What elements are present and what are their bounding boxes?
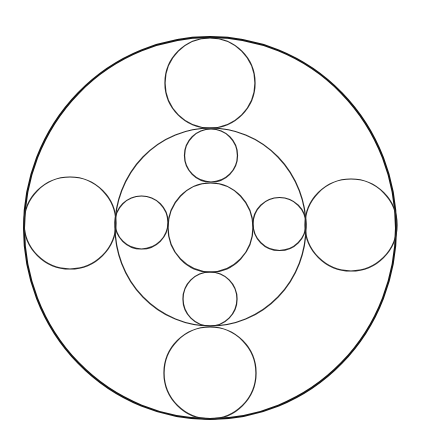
middle-circle xyxy=(115,128,306,326)
outer-circle xyxy=(24,37,396,419)
circle-diagram xyxy=(0,0,424,445)
bottom-large-circle xyxy=(164,327,256,419)
top-large-circle xyxy=(165,38,255,128)
left-small-circle xyxy=(115,196,168,249)
bottom-small-circle xyxy=(183,272,237,326)
top-small-circle xyxy=(185,129,238,182)
left-large-circle xyxy=(24,177,116,269)
right-large-circle xyxy=(305,179,397,271)
right-small-circle xyxy=(253,198,306,251)
center-circle xyxy=(168,183,253,272)
